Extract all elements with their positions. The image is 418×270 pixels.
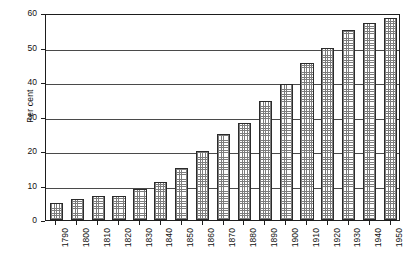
- x-tick-label: 1810: [102, 228, 112, 262]
- bar: [363, 23, 376, 220]
- x-tick-label: 1910: [311, 228, 321, 262]
- y-tick: 20: [0, 152, 45, 153]
- x-tick-mark: [181, 221, 182, 225]
- x-tick-mark: [390, 221, 391, 225]
- x-tick-label: 1870: [227, 228, 237, 262]
- bar: [259, 101, 272, 220]
- x-tick-label: 1940: [373, 228, 383, 262]
- y-tick-mark: [41, 221, 45, 222]
- plot-area: [45, 14, 400, 221]
- bar: [342, 30, 355, 220]
- bar: [196, 151, 209, 220]
- bar: [321, 48, 334, 221]
- x-tick-label: 1800: [81, 228, 91, 262]
- bar: [175, 168, 188, 220]
- x-tick-mark: [160, 221, 161, 225]
- y-tick: 60: [0, 14, 45, 15]
- x-tick-label: 1790: [60, 228, 70, 262]
- bar: [71, 199, 84, 220]
- y-tick-label: 20: [28, 146, 37, 156]
- x-tick-label: 1820: [123, 228, 133, 262]
- x-tick-label: 1950: [394, 228, 404, 262]
- y-tick-label: 10: [28, 181, 37, 191]
- x-tick-label: 1860: [206, 228, 216, 262]
- x-tick-mark: [97, 221, 98, 225]
- x-tick-mark: [139, 221, 140, 225]
- x-tick-label: 1840: [164, 228, 174, 262]
- bar: [50, 203, 63, 220]
- bar-chart-figure: Per cent 0102030405060 17901800181018201…: [0, 0, 418, 270]
- y-tick-label: 30: [28, 112, 37, 122]
- x-tick-label: 1850: [185, 228, 195, 262]
- y-tick: 0: [0, 221, 45, 222]
- x-tick-mark: [76, 221, 77, 225]
- x-tick-label: 1880: [248, 228, 258, 262]
- x-tick-mark: [285, 221, 286, 225]
- bar: [300, 63, 313, 220]
- x-tick-label: 1900: [290, 228, 300, 262]
- x-tick-label: 1930: [352, 228, 362, 262]
- y-tick: 40: [0, 83, 45, 84]
- x-tick-mark: [118, 221, 119, 225]
- y-tick: 10: [0, 187, 45, 188]
- x-tick-label: 1920: [332, 228, 342, 262]
- y-tick-label: 50: [28, 43, 37, 53]
- x-tick-label: 1890: [269, 228, 279, 262]
- y-tick-label: 60: [28, 8, 37, 18]
- x-tick-mark: [348, 221, 349, 225]
- bar: [92, 196, 105, 220]
- x-tick-label: 1830: [144, 228, 154, 262]
- y-tick-label: 40: [28, 77, 37, 87]
- x-tick-mark: [306, 221, 307, 225]
- y-tick: 50: [0, 49, 45, 50]
- y-tick: 30: [0, 118, 45, 119]
- x-tick-mark: [264, 221, 265, 225]
- bar: [238, 123, 251, 220]
- bar: [217, 134, 230, 220]
- bar: [154, 182, 167, 220]
- x-tick-mark: [202, 221, 203, 225]
- x-tick-mark: [243, 221, 244, 225]
- bar: [112, 196, 125, 220]
- x-tick-mark: [55, 221, 56, 225]
- y-axis-ticks: 0102030405060: [0, 0, 45, 207]
- x-tick-mark: [369, 221, 370, 225]
- x-tick-mark: [223, 221, 224, 225]
- bar: [133, 189, 146, 220]
- bar: [384, 18, 397, 220]
- y-tick-label: 0: [32, 215, 37, 225]
- bar: [280, 84, 293, 220]
- x-tick-mark: [327, 221, 328, 225]
